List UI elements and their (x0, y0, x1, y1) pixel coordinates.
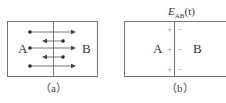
panel-a-label-a: A (18, 42, 27, 55)
panel-a: A B （a） (0, 0, 113, 103)
minus-sign: − (177, 65, 182, 74)
arrow-right-2 (28, 46, 75, 50)
arrow-right-3 (28, 64, 75, 68)
panel-b-label-a: A (153, 42, 162, 55)
panel-a-label-b: B (82, 42, 91, 55)
plus-sign: + (167, 45, 172, 54)
plus-sign: + (167, 65, 172, 74)
panel-b-box (124, 21, 226, 77)
arrow-right-1 (28, 30, 75, 34)
panel-b-label-b: B (193, 42, 202, 55)
arrow-left-1 (43, 39, 65, 43)
panel-b-title: EAB(t) (168, 5, 195, 22)
minus-sign: − (177, 45, 182, 54)
panel-a-caption: （a） (40, 83, 67, 94)
panel-b-caption: （b） (166, 83, 194, 94)
panel-b-divider (174, 22, 175, 76)
minus-sign: − (177, 25, 182, 34)
arrow-left-2 (43, 55, 65, 59)
plus-sign: + (167, 25, 172, 34)
panel-b: EAB(t) + + + − − − A B （b） (113, 0, 226, 103)
